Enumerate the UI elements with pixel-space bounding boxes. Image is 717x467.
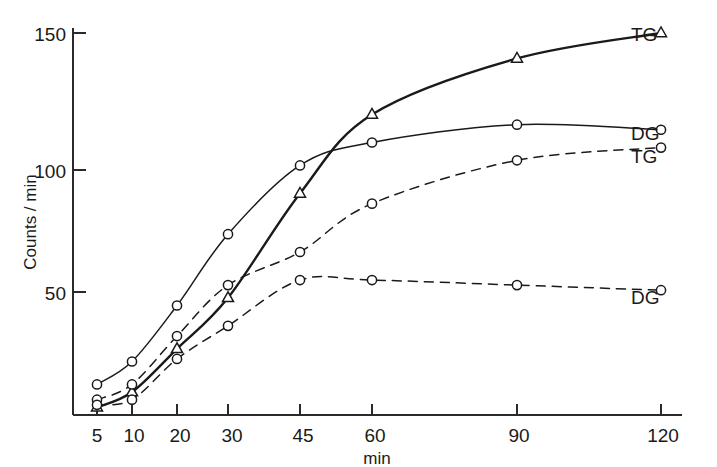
x-axis-title: min <box>363 449 390 467</box>
circle-marker <box>127 357 136 366</box>
circle-marker <box>367 275 376 284</box>
x-tick-label-90: 90 <box>508 425 529 446</box>
series-label-tg-solid: TG <box>631 24 657 45</box>
circle-marker <box>295 161 304 170</box>
circle-marker <box>223 281 232 290</box>
circle-marker <box>223 321 232 330</box>
circle-marker <box>127 395 136 404</box>
circle-marker <box>512 156 521 165</box>
series-line-dg-dashed <box>97 276 661 404</box>
circle-marker <box>367 138 376 147</box>
x-tick-label-45: 45 <box>292 425 313 446</box>
series-label-tg-dashed: TG <box>631 146 657 167</box>
circle-marker <box>512 120 521 129</box>
series-tg-dashed <box>92 143 665 404</box>
circle-marker <box>172 331 181 340</box>
series-labels: TG DG TG DG <box>631 24 660 308</box>
circle-marker <box>367 199 376 208</box>
circle-marker <box>92 400 101 409</box>
circle-marker <box>656 143 665 152</box>
x-tick-label-60: 60 <box>364 425 385 446</box>
x-tick-label-120: 120 <box>647 425 679 446</box>
series-label-dg-solid: DG <box>631 123 660 144</box>
circle-marker <box>172 301 181 310</box>
x-tick-label-30: 30 <box>221 425 242 446</box>
chart-canvas: 150 100 50 5 10 20 30 45 60 90 120 min <box>0 0 717 467</box>
y-tick-label-150: 150 <box>34 24 66 45</box>
circle-marker <box>92 380 101 389</box>
y-tick-label-50: 50 <box>45 283 66 304</box>
circle-marker <box>172 354 181 363</box>
y-axis-ticks <box>73 33 86 292</box>
circle-marker <box>512 281 521 290</box>
chart-figure: 150 100 50 5 10 20 30 45 60 90 120 min <box>0 0 717 467</box>
x-tick-label-10: 10 <box>123 425 144 446</box>
series-label-dg-dashed: DG <box>631 287 660 308</box>
x-tick-label-5: 5 <box>92 425 103 446</box>
circle-marker <box>127 380 136 389</box>
series-dg-dashed <box>92 275 665 409</box>
x-axis-tick-labels: 5 10 20 30 45 60 90 120 <box>92 425 679 446</box>
circle-marker <box>295 247 304 256</box>
series-line-tg-dashed <box>97 148 661 400</box>
y-axis-title: Counts / min <box>21 174 40 269</box>
series-tg <box>91 27 666 411</box>
x-tick-label-20: 20 <box>169 425 190 446</box>
circle-marker <box>295 275 304 284</box>
circle-marker <box>223 230 232 239</box>
x-axis-ticks <box>97 404 661 415</box>
axis-lines <box>73 28 682 415</box>
plot-area <box>91 27 666 411</box>
